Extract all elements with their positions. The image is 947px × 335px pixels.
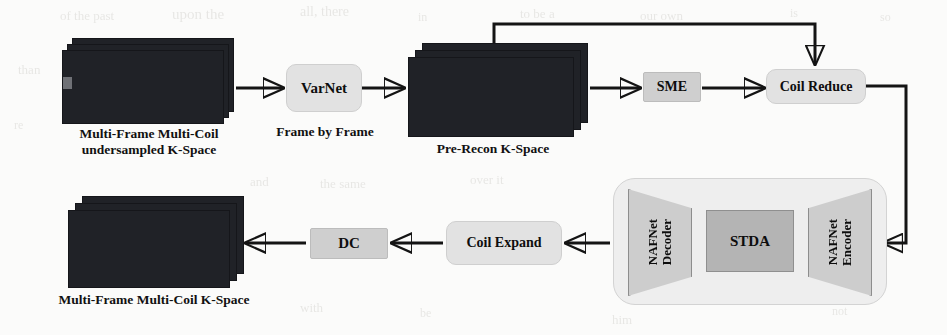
final-frame-front bbox=[68, 210, 230, 288]
kspace-stack-prerecon bbox=[408, 43, 590, 138]
nafnet-encoder-label: NAFNet Encoder bbox=[809, 190, 871, 295]
background-ghost-text: than bbox=[18, 62, 40, 78]
background-ghost-text: so bbox=[880, 10, 891, 25]
background-ghost-text: over it bbox=[470, 172, 504, 188]
nafnet-encoder-block[interactable]: NAFNet Encoder bbox=[808, 189, 872, 296]
prerecon-caption-text: Pre-Recon K-Space bbox=[437, 141, 550, 156]
nafnet-encoder-line2: Encoder bbox=[839, 219, 854, 266]
background-ghost-text: not bbox=[832, 304, 847, 319]
block-varnet[interactable]: VarNet bbox=[286, 64, 362, 112]
block-coil-expand-label: Coil Expand bbox=[466, 235, 541, 251]
block-sme[interactable]: SME bbox=[643, 72, 701, 102]
caption-prerecon-kspace: Pre-Recon K-Space bbox=[398, 141, 588, 157]
background-ghost-text: is bbox=[790, 6, 798, 21]
background-ghost-text: with bbox=[300, 300, 323, 316]
figure-canvas: of the pastupon theall, thereinto be aou… bbox=[0, 0, 947, 335]
block-coil-reduce[interactable]: Coil Reduce bbox=[766, 69, 866, 104]
background-ghost-text: of the past bbox=[60, 8, 114, 24]
nafnet-decoder-line2: Decoder bbox=[659, 219, 674, 265]
varnet-sublabel: Frame by Frame bbox=[276, 124, 373, 139]
block-dc-label: DC bbox=[338, 235, 360, 252]
block-varnet-label: VarNet bbox=[301, 80, 347, 97]
stda-module-container: NAFNet Decoder STDA NAFNet Encoder bbox=[613, 178, 887, 305]
kspace-frame-front bbox=[62, 50, 224, 124]
stda-core-block[interactable]: STDA bbox=[706, 210, 794, 272]
background-ghost-text: upon the bbox=[172, 6, 224, 23]
caption-frame-by-frame: Frame by Frame bbox=[266, 124, 384, 140]
background-ghost-text: him bbox=[612, 312, 632, 328]
background-ghost-text: and bbox=[250, 174, 269, 190]
caption-undersampled-line2: undersampled K-Space bbox=[82, 142, 217, 157]
block-coil-expand[interactable]: Coil Expand bbox=[446, 221, 562, 265]
nafnet-decoder-label: NAFNet Decoder bbox=[629, 190, 691, 295]
caption-final-kspace: Multi-Frame Multi-Coil K-Space bbox=[24, 292, 284, 308]
block-sme-label: SME bbox=[657, 79, 687, 95]
caption-undersampled-line1: Multi-Frame Multi-Coil bbox=[79, 126, 218, 141]
background-ghost-text: in bbox=[418, 10, 427, 25]
background-ghost-text: be bbox=[420, 306, 431, 321]
block-coil-reduce-label: Coil Reduce bbox=[780, 79, 853, 95]
kspace-stack-final-output bbox=[68, 196, 246, 288]
background-ghost-text: to be a bbox=[520, 6, 555, 22]
background-ghost-text: our own bbox=[640, 8, 683, 24]
nafnet-decoder-block[interactable]: NAFNet Decoder bbox=[628, 189, 692, 296]
stda-core-label: STDA bbox=[730, 233, 770, 250]
background-ghost-text: all, there bbox=[300, 4, 349, 20]
background-ghost-text: re bbox=[14, 118, 23, 133]
background-ghost-text: the same bbox=[320, 176, 366, 192]
prerecon-frame-front bbox=[408, 57, 574, 137]
caption-undersampled-kspace: Multi-Frame Multi-Coilundersampled K-Spa… bbox=[46, 126, 252, 158]
final-caption-text: Multi-Frame Multi-Coil K-Space bbox=[58, 292, 249, 307]
kspace-stack-undersampled bbox=[62, 38, 236, 124]
block-dc[interactable]: DC bbox=[310, 228, 388, 259]
